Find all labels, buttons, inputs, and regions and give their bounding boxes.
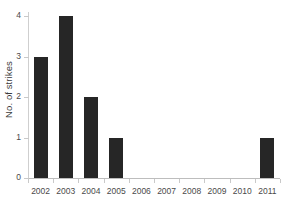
x-tick-mark [78, 179, 79, 183]
x-tick-mark [104, 179, 105, 183]
bar-2002[interactable] [34, 57, 48, 179]
x-tick-label-2006: 2006 [129, 185, 154, 197]
bar-2003[interactable] [59, 16, 73, 178]
x-tick-mark [154, 179, 155, 183]
x-tick-label-2004: 2004 [78, 185, 103, 197]
x-tick-mark [53, 179, 54, 183]
chart-figure: No. of strikes 01234 2002200320042005200… [0, 0, 285, 206]
x-tick-mark [255, 179, 256, 183]
x-tick-label-2002: 2002 [28, 185, 53, 197]
x-tick-mark [204, 179, 205, 183]
x-tick-label-2005: 2005 [104, 185, 129, 197]
x-tick-label-2011: 2011 [255, 185, 280, 197]
x-tick-label-2008: 2008 [179, 185, 204, 197]
x-tick-mark [28, 179, 29, 183]
x-tick-label-2009: 2009 [204, 185, 229, 197]
bar-2005[interactable] [109, 138, 123, 179]
x-tick-label-2007: 2007 [154, 185, 179, 197]
x-tick-mark [129, 179, 130, 183]
x-tick-mark [179, 179, 180, 183]
x-tick-label-2010: 2010 [230, 185, 255, 197]
bars-layer [0, 0, 285, 178]
bar-2011[interactable] [260, 138, 274, 179]
x-tick-label-2003: 2003 [53, 185, 78, 197]
x-tick-mark [230, 179, 231, 183]
bar-2004[interactable] [84, 97, 98, 178]
x-tick-mark [280, 179, 281, 183]
